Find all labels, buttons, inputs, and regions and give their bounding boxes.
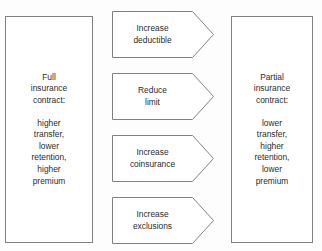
left-box-heading-line-3: contract: xyxy=(33,95,65,107)
right-box-detail-line-5: lower xyxy=(262,164,282,176)
right-box-heading-line-3: contract: xyxy=(256,95,288,107)
arrow-reduce-limit[interactable]: Reduce limit xyxy=(112,73,214,120)
left-box-heading-line-2: insurance xyxy=(31,83,67,95)
right-box-heading-line-1: Partial xyxy=(260,72,284,84)
left-box-detail-line-4: retention, xyxy=(32,152,67,164)
diagram-canvas: Full insurance contract: higher transfer… xyxy=(0,0,322,251)
left-box-detail-line-6: premium xyxy=(33,176,66,188)
left-box-detail-line-1: higher xyxy=(37,118,60,130)
right-box-heading-line-2: insurance xyxy=(254,83,290,95)
left-box-detail-line-2: transfer, xyxy=(34,129,64,141)
arrow-increase-deductible[interactable]: Increase deductible xyxy=(112,11,214,58)
full-insurance-contract-box[interactable]: Full insurance contract: higher transfer… xyxy=(5,16,93,243)
right-box-detail-line-6: premium xyxy=(256,176,289,188)
partial-insurance-contract-box[interactable]: Partial insurance contract: lower transf… xyxy=(231,16,313,243)
right-box-detail-line-2: transfer, xyxy=(257,129,287,141)
right-arrow-icon xyxy=(112,73,214,120)
right-arrow-icon xyxy=(112,135,214,182)
left-box-detail-line-3: lower xyxy=(39,141,59,153)
left-box-heading-line-1: Full xyxy=(42,72,56,84)
right-box-detail-line-3: higher xyxy=(260,141,283,153)
right-box-detail-line-4: retention, xyxy=(255,152,290,164)
arrow-increase-exclusions[interactable]: Increase exclusions xyxy=(112,197,214,244)
arrow-increase-coinsurance[interactable]: Increase coinsurance xyxy=(112,135,214,182)
right-arrow-icon xyxy=(112,11,214,58)
right-box-detail-line-1: lower xyxy=(262,118,282,130)
right-arrow-icon xyxy=(112,197,214,244)
left-box-detail-line-5: higher xyxy=(37,164,60,176)
